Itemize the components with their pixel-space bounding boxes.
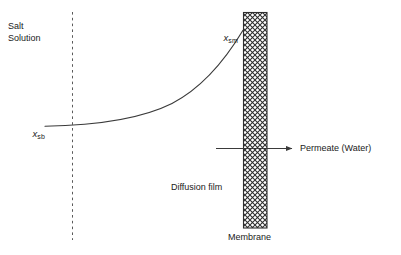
x-sm-subscript: sm: [228, 37, 238, 44]
permeate-water-label: Permeate (Water): [300, 143, 371, 155]
diffusion-film-label: Diffusion film: [171, 182, 222, 194]
diagram-canvas: [0, 0, 401, 255]
x-sb-concentration-label: xsb: [22, 117, 45, 151]
membrane-rectangle: [244, 13, 268, 229]
concentration-polarization-diagram: Salt Solution xsb xsm Permeate (Water) D…: [0, 0, 401, 255]
salt-solution-label: Salt Solution: [8, 21, 41, 44]
membrane-label: Membrane: [228, 232, 271, 244]
x-sm-concentration-label: xsm: [213, 21, 238, 55]
x-sb-subscript: sb: [37, 133, 45, 140]
